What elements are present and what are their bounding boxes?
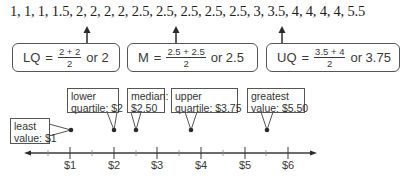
callout-line1: greatest: [251, 90, 301, 102]
callout-line1: upper: [175, 90, 234, 102]
upper-quartile-formula: UQ = 3.5 + 4 2 or 3.75: [266, 43, 400, 72]
tick-label-4: $4: [195, 159, 207, 171]
greatest-value-dot: [265, 128, 270, 133]
upper-quartile-dot: [189, 128, 194, 133]
median-arrow-icon: [173, 26, 180, 43]
equals-sign: =: [154, 50, 162, 65]
callout-line2: quartile: $2: [71, 102, 115, 114]
median-pointer: [131, 112, 141, 132]
tick-label-3: $3: [151, 159, 163, 171]
number-line: [24, 147, 317, 159]
formula-result: or 2: [86, 50, 108, 65]
callout-line2: $2.50: [131, 102, 161, 114]
lq-arrow-icon: [84, 26, 91, 43]
formula-result: or 3.75: [350, 50, 390, 65]
greatest-value-pointer: [261, 112, 273, 132]
formula-lhs: M: [138, 50, 149, 65]
least-value-callout: least value: $1: [10, 118, 50, 144]
equals-sign: =: [302, 50, 310, 65]
equals-sign: =: [45, 50, 53, 65]
tick-label-1: $1: [64, 159, 76, 171]
upper-quartile-callout: upper quartile: $3.75: [171, 88, 238, 113]
right-arrow-icon: [310, 151, 317, 156]
lower-quartile-dot: [112, 128, 117, 133]
lower-quartile-pointer: [107, 112, 117, 132]
callout-line1: lower: [71, 90, 115, 102]
denominator: 2: [327, 58, 332, 69]
upper-quartile-pointer: [185, 112, 197, 132]
callout-line1: least: [14, 120, 46, 132]
callout-line1: median:: [131, 90, 161, 102]
lower-quartile-callout: lower quartile: $2: [67, 88, 119, 113]
numerator: 3.5 + 4: [314, 47, 345, 58]
formula-lhs: UQ: [277, 50, 297, 65]
callout-line2: value: $5.50: [251, 102, 301, 114]
callout-line2: value: $1: [14, 132, 46, 144]
tick-label-5: $5: [239, 159, 251, 171]
formula-lhs: LQ: [23, 50, 40, 65]
denominator: 2: [183, 58, 188, 69]
numerator: 2 + 2: [58, 47, 81, 58]
numerator: 2.5 + 2.5: [166, 47, 205, 58]
median-dot: [134, 128, 139, 133]
least-value-dot: [69, 128, 74, 133]
formula-result: or 2.5: [211, 50, 244, 65]
lower-quartile-formula: LQ = 2 + 2 2 or 2: [12, 43, 120, 72]
greatest-value-callout: greatest value: $5.50: [247, 88, 305, 113]
fraction: 2 + 2 2: [58, 47, 81, 69]
fraction: 3.5 + 4 2: [314, 47, 345, 69]
left-arrow-icon: [24, 151, 31, 156]
uq-arrow-icon: [279, 26, 286, 43]
fraction: 2.5 + 2.5 2: [166, 47, 205, 69]
median-callout: median: $2.50: [127, 88, 165, 113]
tick-label-6: $6: [282, 159, 294, 171]
median-formula: M = 2.5 + 2.5 2 or 2.5: [127, 43, 258, 72]
tick-label-2: $2: [108, 159, 120, 171]
callout-line2: quartile: $3.75: [175, 102, 234, 114]
denominator: 2: [67, 58, 72, 69]
